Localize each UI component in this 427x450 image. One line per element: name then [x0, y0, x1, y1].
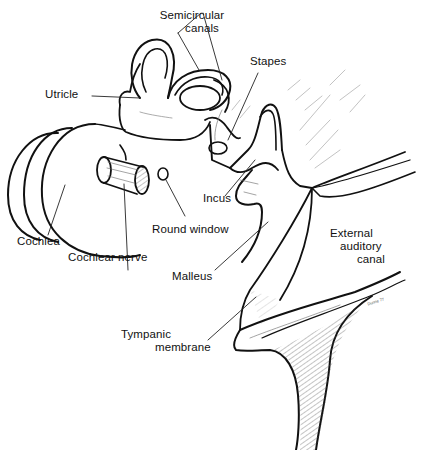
- temporal-bone-shading: [232, 70, 365, 168]
- label-incus: Incus: [203, 192, 231, 205]
- semicircular-canals-shape: [131, 39, 230, 112]
- label-tympanic-line1: Tympanic: [121, 328, 211, 341]
- leader-stapes: [228, 73, 258, 140]
- label-round-window: Round window: [152, 223, 229, 236]
- cochlear-nerve-shape: [97, 157, 149, 194]
- vestibule-shape: [119, 64, 210, 140]
- label-eac-line2: auditory: [330, 240, 410, 253]
- ear-anatomy-diagram: Semicircular canals Stapes Utricle Incus…: [0, 0, 427, 450]
- label-tympanic-membrane: Tympanic membrane: [121, 328, 211, 354]
- label-eac-line1: External: [330, 227, 410, 240]
- leader-round-window: [166, 180, 185, 216]
- leader-incus: [225, 160, 255, 196]
- label-cochlear-nerve: Cochlear nerve: [68, 251, 147, 264]
- external-canal-shape: [234, 152, 415, 450]
- round-window-shape: [158, 168, 168, 180]
- middle-ear-shape: [205, 105, 312, 262]
- label-semicircular-canals: Semicircular canals: [152, 9, 232, 35]
- leader-tympanic: [208, 297, 256, 340]
- label-cochlea: Cochlea: [17, 235, 60, 248]
- label-tympanic-line2: membrane: [121, 341, 211, 354]
- leader-cochlea: [48, 185, 65, 235]
- leader-semicircular-2: [178, 33, 199, 70]
- label-eac-line3: canal: [330, 253, 410, 266]
- label-semicircular-line2: canals: [152, 22, 232, 35]
- label-stapes: Stapes: [250, 55, 286, 68]
- label-malleus: Malleus: [172, 270, 212, 283]
- label-utricle: Utricle: [45, 88, 78, 101]
- leader-utricle: [92, 96, 140, 98]
- label-external-auditory-canal: External auditory canal: [330, 227, 410, 266]
- label-semicircular-line1: Semicircular: [152, 9, 232, 22]
